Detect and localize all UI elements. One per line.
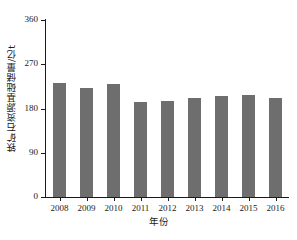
bar-2016 — [269, 98, 282, 197]
y-tick-label: 270 — [0, 59, 38, 68]
x-tick-mark — [195, 197, 196, 201]
bar-2013 — [188, 98, 201, 197]
x-tick-mark — [222, 197, 223, 201]
bar-chart: 铁矿石资源基础储量/亿t 090180270360 20082009201020… — [0, 0, 297, 240]
bar-2014 — [215, 96, 228, 197]
bar-2010 — [107, 84, 120, 197]
bar-2011 — [134, 102, 147, 197]
bar-2015 — [242, 95, 255, 197]
y-tick-label: 180 — [0, 104, 38, 113]
x-tick-mark — [276, 197, 277, 201]
x-tick-mark — [87, 197, 88, 201]
x-tick-mark — [141, 197, 142, 201]
x-tick-mark — [114, 197, 115, 201]
y-tick-label: 90 — [0, 148, 38, 157]
bar-2008 — [53, 83, 66, 197]
x-tick-mark — [249, 197, 250, 201]
x-axis-title: 年份 — [0, 216, 297, 227]
x-tick-mark — [60, 197, 61, 201]
plot-area — [46, 20, 289, 197]
y-tick-label: 0 — [0, 192, 38, 201]
y-tick-label: 360 — [0, 15, 38, 24]
y-tick-mark — [41, 197, 46, 198]
bar-2012 — [161, 101, 174, 197]
bar-2009 — [80, 88, 93, 197]
x-tick-label: 2016 — [256, 203, 296, 213]
y-axis-title: 铁矿石资源基础储量/亿t — [3, 0, 21, 197]
x-tick-mark — [168, 197, 169, 201]
